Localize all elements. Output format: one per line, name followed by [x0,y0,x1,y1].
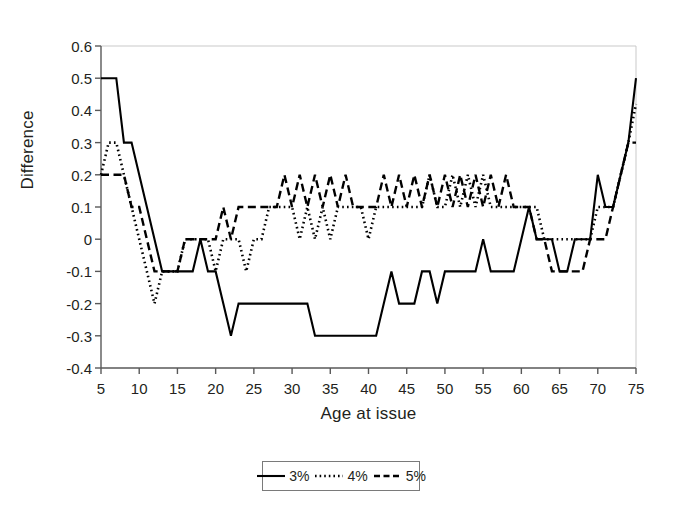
x-tick-label: 35 [322,380,339,397]
x-tick-label: 55 [475,380,492,397]
x-tick-label: 60 [513,380,530,397]
legend-swatch-dashed [373,471,403,481]
legend-swatch-dotted [314,471,344,481]
x-tick-label: 30 [284,380,301,397]
x-tick-label: 10 [131,380,148,397]
legend-item: 5% [373,468,426,484]
y-tick-label: 0.6 [40,38,92,55]
x-tick-label: 75 [628,380,645,397]
legend-label: 3% [289,468,309,484]
y-tick-label: -0.2 [40,295,92,312]
legend-swatch-solid [256,471,286,481]
x-tick-label: 20 [207,380,224,397]
legend-label: 4% [347,468,367,484]
data-series-group [101,78,636,336]
y-tick-label: 0.1 [40,199,92,216]
x-tick-label: 5 [97,380,105,397]
legend-item: 4% [314,468,367,484]
y-tick-label: 0.2 [40,166,92,183]
x-tick-label: 40 [360,380,377,397]
x-tick-label: 50 [437,380,454,397]
x-axis-title: Age at issue [101,404,636,424]
x-tick-label: 15 [169,380,186,397]
legend-item: 3% [256,468,309,484]
x-tick-label: 25 [246,380,263,397]
y-tick-label: 0 [40,231,92,248]
y-tick-label: -0.1 [40,263,92,280]
series-line-4pct [101,104,636,304]
x-tick-label: 65 [551,380,568,397]
plot-area [0,0,685,525]
y-tick-label: 0.5 [40,70,92,87]
x-tick-label: 70 [589,380,606,397]
legend-label: 5% [406,468,426,484]
axes [95,46,636,374]
y-tick-label: -0.4 [40,360,92,377]
y-tick-label: 0.4 [40,102,92,119]
chart-legend: 3%4%5% [262,461,420,491]
x-tick-label: 45 [398,380,415,397]
y-axis-title: Difference [18,70,38,230]
y-tick-label: 0.3 [40,134,92,151]
y-tick-label: -0.3 [40,327,92,344]
line-chart: Difference Age at issue -0.4-0.3-0.2-0.1… [0,0,685,525]
